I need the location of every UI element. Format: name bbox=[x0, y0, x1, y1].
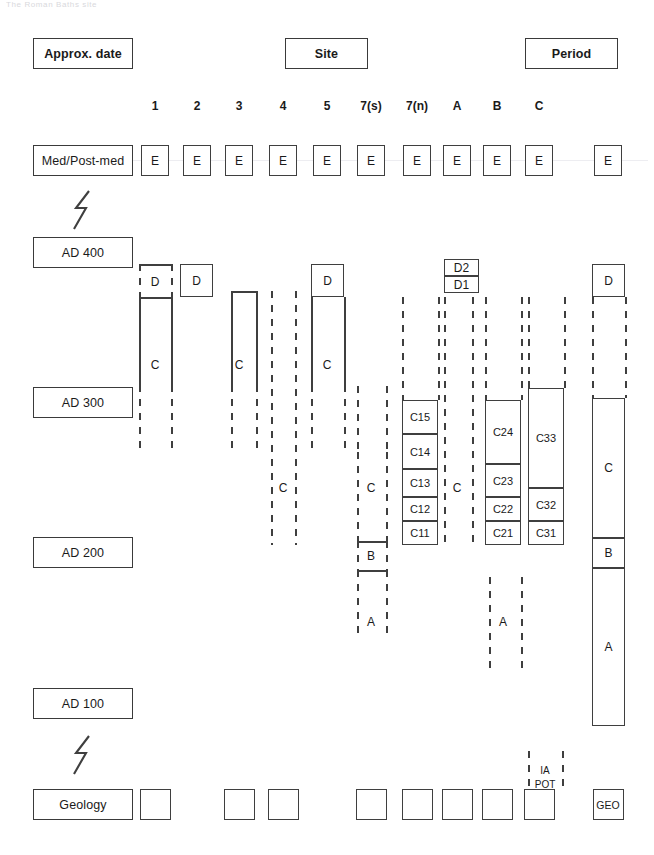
unit-e-col-5: E bbox=[313, 145, 341, 176]
col-label-c-col-1: C bbox=[135, 358, 175, 372]
col-label-a-col-7s: A bbox=[351, 615, 391, 629]
unit-e-col-a: E bbox=[443, 145, 471, 176]
unit-d2-col-a: D2 bbox=[444, 259, 479, 276]
col-edge-top-d-col-1 bbox=[139, 264, 173, 266]
unit-d-col-5: D bbox=[311, 264, 344, 297]
column-header-col-4: 4 bbox=[259, 99, 307, 113]
col-edge-bottom-d-col-1 bbox=[139, 297, 173, 299]
column-header-col-b: B bbox=[473, 99, 521, 113]
column-header-col-5: 5 bbox=[303, 99, 351, 113]
unit-c11-col-7n: C11 bbox=[402, 521, 438, 545]
col-edge-right-c-col-1-dashed bbox=[171, 385, 173, 452]
col-label-b-col-7s: B bbox=[351, 549, 391, 563]
geology-box-geo-period: GEO bbox=[593, 789, 624, 820]
date-box-ad-400: AD 400 bbox=[33, 237, 133, 268]
date-box-ad-200: AD 200 bbox=[33, 537, 133, 568]
stratigraphy-diagram: The Roman Baths site Approx. dateSitePer… bbox=[0, 0, 654, 855]
column-header-col-2: 2 bbox=[173, 99, 221, 113]
column-header-col-7s: 7(s) bbox=[347, 99, 395, 113]
unit-c15-col-7n: C15 bbox=[402, 400, 438, 434]
header-box-site: Site bbox=[285, 38, 368, 69]
col-edge-right-c-upper-col-7s bbox=[386, 386, 388, 452]
col-label-c-col-3: C bbox=[219, 358, 259, 372]
column-header-col-3: 3 bbox=[215, 99, 263, 113]
unit-e-col-3: E bbox=[225, 145, 253, 176]
col-label-c-col-4: C bbox=[263, 481, 303, 495]
col-edge-bottom-b-col-7s bbox=[357, 570, 388, 572]
col-edge-right-c-col-5-dashed bbox=[344, 385, 346, 452]
col-edge-top-b-col-7s bbox=[357, 541, 388, 543]
unit-e-col-7s: E bbox=[357, 145, 385, 176]
unit-c21-col-b: C21 bbox=[485, 521, 521, 545]
unit-c22-col-b: C22 bbox=[485, 497, 521, 521]
unit-e-col-7n: E bbox=[403, 145, 431, 176]
unit-c13-col-7n: C13 bbox=[402, 469, 438, 497]
col-edge-right-c-col-c-upper bbox=[564, 297, 566, 388]
col-edge-left-c-col-c-upper bbox=[528, 297, 530, 388]
date-box-ad-100: AD 100 bbox=[33, 688, 133, 719]
col-edge-left-c-col-5-dashed bbox=[311, 385, 313, 452]
col-edge-left-c-col-1-dashed bbox=[139, 385, 141, 452]
unit-d-col-2: D bbox=[180, 264, 213, 297]
col-edge-left-c-col-b-upper bbox=[485, 297, 487, 400]
unit-e-col-c: E bbox=[525, 145, 553, 176]
col-edge-left-c-col-3-dashed bbox=[231, 385, 233, 452]
col-label-d-col-1: D bbox=[135, 275, 175, 289]
hiatus-bolt-hiatus-lower bbox=[72, 735, 94, 775]
col-edge-right-c-col-3-dashed bbox=[256, 385, 258, 452]
col-edge-right-c-col-4 bbox=[295, 291, 297, 545]
geology-box-geo-col-4 bbox=[268, 789, 299, 820]
geology-box-geo-col-c bbox=[524, 789, 555, 820]
unit-e-col-2: E bbox=[183, 145, 211, 176]
ia-label: IA bbox=[527, 764, 563, 778]
unit-c14-col-7n: C14 bbox=[402, 434, 438, 469]
unit-c-period: C bbox=[592, 398, 625, 538]
col-label-a-col-b: A bbox=[483, 615, 523, 629]
col-edge-right-c-col-7n-upper bbox=[438, 297, 440, 400]
unit-d1-col-a: D1 bbox=[444, 276, 479, 293]
col-edge-right-c-col-7s bbox=[386, 452, 388, 541]
col-edge-left-c-col-4 bbox=[271, 291, 273, 545]
column-header-col-1: 1 bbox=[131, 99, 179, 113]
unit-e-col-1: E bbox=[141, 145, 169, 176]
column-header-col-c: C bbox=[515, 99, 563, 113]
col-edge-right-c-period-gap bbox=[625, 297, 627, 398]
header-box-approx-date: Approx. date bbox=[33, 38, 133, 69]
col-label-c-col-5: C bbox=[307, 358, 347, 372]
unit-e-col-4: E bbox=[269, 145, 297, 176]
cropped-caption: The Roman Baths site bbox=[6, 0, 206, 7]
geology-box-geo-col-b bbox=[482, 789, 513, 820]
unit-b-period: B bbox=[592, 538, 625, 568]
unit-e-period: E bbox=[594, 145, 622, 176]
geology-box-geo-col-3 bbox=[224, 789, 255, 820]
unit-e-col-b: E bbox=[483, 145, 511, 176]
unit-c32-col-c: C32 bbox=[528, 488, 564, 521]
col-label-c-col-a: C bbox=[437, 481, 477, 495]
unit-a-period: A bbox=[592, 568, 625, 726]
col-edge-top-c-col-3 bbox=[231, 291, 258, 293]
col-edge-right-c-col-b-upper bbox=[521, 297, 523, 400]
hiatus-bolt-hiatus-upper bbox=[72, 190, 94, 230]
header-box-period: Period bbox=[525, 38, 618, 69]
geology-box-geo-col-a bbox=[442, 789, 473, 820]
col-edge-left-c-period-gap bbox=[592, 297, 594, 398]
unit-c31-col-c: C31 bbox=[528, 521, 564, 545]
col-edge-left-c-upper-col-7s bbox=[357, 386, 359, 452]
unit-c12-col-7n: C12 bbox=[402, 497, 438, 521]
unit-c23-col-b: C23 bbox=[485, 464, 521, 497]
unit-c33-col-c: C33 bbox=[528, 388, 564, 488]
date-box-med-post-med: Med/Post-med bbox=[33, 145, 133, 176]
geology-box-geo-col-7n bbox=[402, 789, 433, 820]
unit-d-period: D bbox=[592, 264, 625, 297]
col-edge-right-c-col-a bbox=[472, 297, 474, 545]
date-box-geology: Geology bbox=[33, 789, 133, 820]
date-box-ad-300: AD 300 bbox=[33, 387, 133, 418]
col-edge-left-c-col-a bbox=[444, 297, 446, 545]
col-edge-left-c-col-7s bbox=[357, 452, 359, 541]
col-label-c-col-7s: C bbox=[351, 481, 391, 495]
col-edge-left-c-col-7n-upper bbox=[402, 297, 404, 400]
unit-c24-col-b: C24 bbox=[485, 400, 521, 464]
geology-box-geo-col-7s bbox=[356, 789, 387, 820]
geology-box-geo-col-1 bbox=[140, 789, 171, 820]
